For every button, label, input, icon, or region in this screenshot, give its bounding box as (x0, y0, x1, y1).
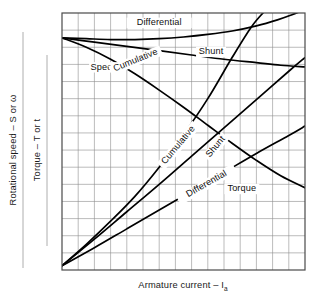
figure-container: Rotational speed – S or ω Torque – T or … (0, 0, 322, 300)
curve-label-shunt: Shunt (199, 46, 224, 56)
x-axis-title-subscript: a (224, 285, 228, 292)
x-axis-title-main: Armature current – I (138, 280, 224, 290)
curve-label-torque: Torque (227, 183, 256, 193)
dc-motor-characteristics-chart: Rotational speed – S or ω Torque – T or … (0, 0, 322, 300)
x-axis-title: Armature current – Ia (138, 280, 228, 292)
y-axis-inner-title: Torque – T or t (32, 119, 42, 182)
y-axis-outer-title: Rotational speed – S or ω (8, 95, 18, 206)
curve-label-differential: Differential (137, 17, 182, 27)
